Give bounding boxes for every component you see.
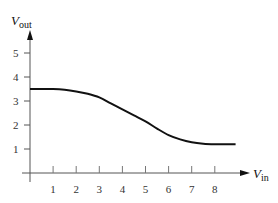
x-tick-label: 8 [212, 183, 218, 195]
x-tick-label: 6 [166, 183, 172, 195]
y-tick-label: 5 [13, 47, 19, 59]
x-tick-label: 1 [50, 183, 56, 195]
x-tick-label: 7 [189, 183, 195, 195]
chart: 12345 12345678 Vout Vin [0, 0, 278, 203]
x-ticks: 12345678 [50, 166, 218, 195]
y-tick-label: 4 [13, 71, 19, 83]
y-tick-label: 2 [13, 119, 19, 131]
x-tick-label: 3 [97, 183, 103, 195]
y-tick-label: 3 [13, 95, 19, 107]
x-tick-label: 5 [143, 183, 149, 195]
data-line [30, 89, 236, 144]
x-tick-label: 4 [120, 183, 126, 195]
y-tick-label: 1 [13, 143, 19, 155]
x-tick-label: 2 [73, 183, 79, 195]
y-axis-label: Vout [11, 13, 32, 30]
x-axis-arrow-icon [240, 170, 250, 176]
x-axis-label: Vin [253, 166, 269, 183]
y-ticks: 12345 [13, 47, 30, 155]
y-axis-arrow-icon [27, 30, 33, 40]
